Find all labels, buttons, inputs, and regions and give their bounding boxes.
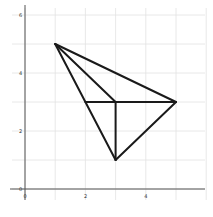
y-tick-label: 2: [19, 128, 22, 134]
coordinate-plane: 0242460: [0, 0, 213, 217]
tick-labels: 0242460: [19, 12, 147, 199]
x-tick-label: 4: [144, 193, 147, 199]
grid: [12, 8, 206, 200]
origin-label: 0: [19, 186, 22, 192]
y-tick-label: 6: [19, 12, 22, 18]
y-tick-label: 4: [19, 70, 22, 76]
x-tick-label: 0: [24, 193, 27, 199]
x-tick-label: 2: [84, 193, 87, 199]
